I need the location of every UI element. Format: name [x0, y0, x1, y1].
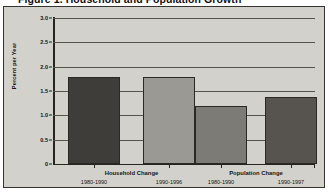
x-tick-mark — [169, 164, 170, 168]
gridline — [53, 18, 315, 19]
gridline — [53, 42, 315, 43]
y-tick-mark — [49, 66, 52, 67]
period-label: 1990-1997 — [251, 179, 330, 185]
bar — [143, 77, 195, 164]
y-tick-mark — [49, 115, 52, 116]
y-tick-mark — [49, 139, 52, 140]
y-tick-label: 0 — [45, 161, 48, 167]
bar — [265, 97, 317, 164]
group-label: Population Change — [201, 170, 311, 176]
y-tick-mark — [49, 91, 52, 92]
x-axis-end-tick — [314, 164, 315, 168]
chart-title: Figure 1. Household and Population Growt… — [18, 0, 318, 5]
period-label: 1980-1990 — [54, 179, 134, 185]
bar — [68, 77, 120, 164]
x-tick-mark — [94, 164, 95, 168]
x-axis-ticks — [53, 164, 315, 169]
y-tick-label: 1.0 — [40, 112, 48, 118]
bar — [195, 106, 247, 164]
group-label: Household Change — [77, 170, 187, 176]
y-tick-mark — [49, 164, 52, 165]
y-tick-label: 0.5 — [40, 137, 48, 143]
y-tick-label: 1.5 — [40, 88, 48, 94]
x-tick-mark — [291, 164, 292, 168]
y-tick-label: 2.5 — [40, 39, 48, 45]
chart-panel: Percent per Year 00.51.01.52.02.53.0 198… — [3, 6, 325, 188]
plot-area: 00.51.01.52.02.53.0 — [53, 18, 315, 164]
y-tick-mark — [49, 42, 52, 43]
y-tick-label: 3.0 — [40, 15, 48, 21]
y-tick-label: 2.0 — [40, 64, 48, 70]
gridline — [53, 67, 315, 68]
period-label: 1980-1990 — [181, 179, 261, 185]
y-axis-title: Percent per Year — [11, 18, 17, 114]
x-tick-mark — [221, 164, 222, 168]
y-tick-mark — [49, 18, 52, 19]
